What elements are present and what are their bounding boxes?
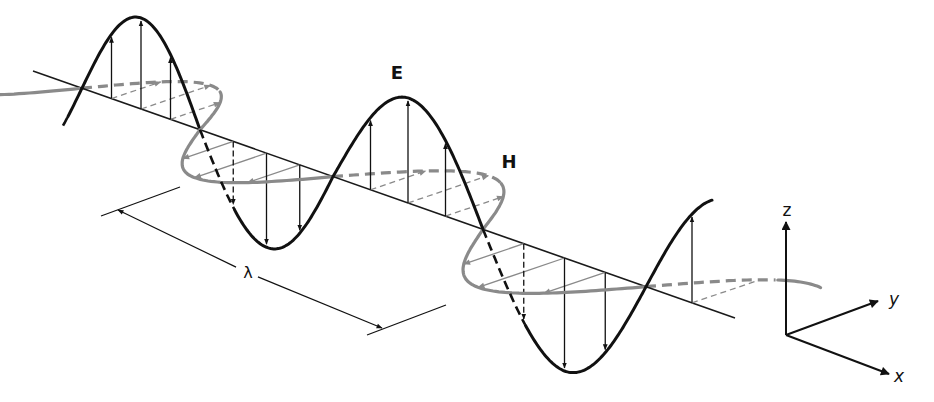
- h-field-vectors: [112, 82, 760, 303]
- h-vector-arrow-icon: [141, 85, 211, 109]
- coordinate-axes: z y x: [783, 200, 905, 386]
- e-wave-segment: [68, 89, 82, 116]
- e-wave-segment-hidden: [63, 117, 68, 125]
- h-wave-segment: [778, 280, 821, 288]
- h-vector-arrow-icon: [408, 176, 488, 203]
- e-wave-segment: [646, 200, 712, 287]
- em-wave-diagram: E H λ z y x: [0, 0, 934, 402]
- y-axis-arrow-icon: [786, 301, 878, 335]
- h-wave-segment: [0, 89, 79, 95]
- propagation-axis: [33, 71, 735, 318]
- e-wave-segment: [525, 288, 645, 373]
- wavelength-label: λ: [243, 263, 252, 282]
- h-field-label: H: [501, 151, 516, 172]
- wavelength-extension-line: [367, 305, 446, 335]
- h-vector-arrow-icon: [478, 258, 564, 287]
- h-vector-arrow-icon: [195, 153, 267, 177]
- h-wave-segment-back: [646, 280, 776, 287]
- h-wave-segment: [201, 92, 222, 129]
- propagation-axis-line: [33, 71, 735, 318]
- wavelength-arrow-right-icon: [258, 277, 382, 328]
- z-axis-label: z: [783, 200, 792, 220]
- wavelength-extension-line: [101, 187, 180, 216]
- x-axis-arrow-icon: [786, 335, 889, 374]
- wavelength-arrow-left-icon: [118, 210, 236, 267]
- e-wave-segment-hidden: [483, 229, 525, 324]
- h-wave-segment-back: [333, 171, 501, 183]
- wavelength-marker: [101, 187, 446, 335]
- h-vector-arrow-icon: [371, 171, 426, 190]
- h-field-wave: [0, 89, 821, 294]
- e-wave-segment-hidden: [200, 130, 235, 210]
- e-wave-segment: [235, 178, 333, 249]
- h-wave-segment: [484, 184, 504, 229]
- e-field-label: E: [391, 62, 403, 83]
- x-axis-label: x: [893, 366, 905, 386]
- y-axis-label: y: [888, 289, 900, 309]
